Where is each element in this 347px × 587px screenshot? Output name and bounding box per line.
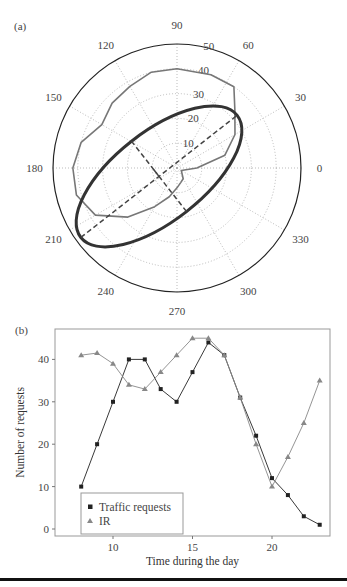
ir-marker (205, 335, 211, 340)
y-axis-title: Number of requests (14, 387, 27, 478)
ir-marker (317, 378, 323, 383)
traffic-marker (302, 514, 306, 518)
traffic-marker (79, 485, 83, 489)
traffic-marker (206, 340, 210, 344)
y-tick-label: 20 (38, 438, 50, 450)
x-tick-label: 20 (267, 541, 279, 553)
traffic-marker (111, 400, 115, 404)
traffic-marker (254, 434, 258, 438)
traffic-marker (191, 370, 195, 374)
traffic-marker (270, 476, 274, 480)
legend-square-icon (88, 505, 93, 510)
ir-marker (269, 484, 275, 489)
x-tick-label: 15 (187, 541, 199, 553)
traffic-marker (159, 387, 163, 391)
traffic-marker (286, 493, 290, 497)
bottom-rule (0, 578, 347, 581)
legend-label: Traffic requests (99, 501, 171, 514)
traffic-marker (318, 523, 322, 527)
traffic-marker (143, 357, 147, 361)
y-tick-label: 40 (38, 353, 50, 365)
ir-marker (190, 335, 196, 340)
y-tick-label: 30 (38, 396, 50, 408)
x-tick-label: 10 (108, 541, 120, 553)
legend-box (81, 493, 183, 534)
ir-series-line (81, 338, 320, 486)
ir-marker (110, 361, 116, 366)
line-chart: 010203040101520Time during the dayNumber… (0, 0, 347, 587)
traffic-marker (175, 400, 179, 404)
traffic-marker (95, 442, 99, 446)
y-tick-label: 0 (44, 523, 50, 535)
y-tick-label: 10 (38, 481, 50, 493)
legend-label: IR (99, 515, 111, 527)
legend: Traffic requestsIR (81, 493, 183, 534)
ir-marker (94, 350, 100, 355)
x-axis-title: Time during the day (146, 555, 239, 568)
ir-marker (301, 420, 307, 425)
traffic-marker (127, 357, 131, 361)
ir-marker (237, 395, 243, 400)
ir-marker (285, 454, 291, 459)
